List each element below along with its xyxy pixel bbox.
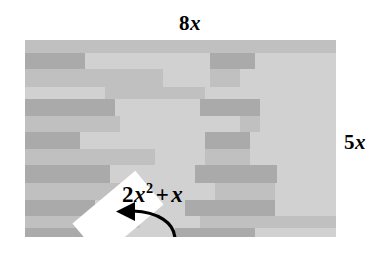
right-dimension-label: 5x bbox=[344, 131, 366, 153]
top-dimension-coefficient: 8 bbox=[179, 11, 190, 35]
expression-variable: x bbox=[134, 182, 146, 207]
region-area-expression: 2x2+x bbox=[122, 181, 183, 206]
right-dimension-coefficient: 5 bbox=[344, 130, 355, 154]
expression-operator: + bbox=[154, 182, 172, 207]
figure-canvas: 8x 5x 2x2+x bbox=[0, 0, 380, 256]
expression-coefficient: 2 bbox=[122, 182, 134, 207]
right-dimension-variable: x bbox=[355, 130, 366, 154]
expression-second-term: x bbox=[171, 182, 183, 207]
top-dimension-label: 8x bbox=[0, 12, 380, 34]
shaded-rectangle bbox=[25, 40, 336, 237]
expression-exponent: 2 bbox=[146, 180, 154, 196]
top-dimension-variable: x bbox=[190, 11, 201, 35]
